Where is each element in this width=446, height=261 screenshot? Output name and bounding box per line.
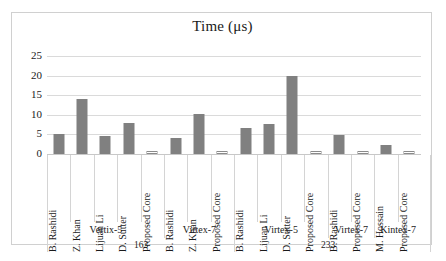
bar-slot [164, 56, 187, 154]
bar[interactable] [380, 145, 391, 154]
y-axis-tick-5: 5 [16, 128, 42, 139]
category-label-cell: B. Rashidi [234, 155, 257, 222]
supergroup-label: 163 [47, 238, 234, 252]
y-axis-tick-10: 10 [16, 109, 42, 120]
bar-slot [257, 56, 280, 154]
bar[interactable] [357, 151, 368, 154]
bar-slot [374, 56, 397, 154]
bar-slot [47, 56, 70, 154]
group-label: Kintex-7 [374, 222, 421, 238]
category-label-cell: B. Rashidi [164, 155, 187, 222]
supergroup-label: 233 [234, 238, 421, 252]
bar[interactable] [217, 151, 228, 154]
bar-slot [211, 56, 234, 154]
category-label-cell: Proposed Core [141, 155, 164, 222]
group-label: Vertix-5 [47, 222, 164, 238]
bar[interactable] [100, 136, 111, 154]
y-axis-tick-20: 20 [16, 70, 42, 81]
category-label-cell: Lijuan Li [257, 155, 280, 222]
category-label-cell: Proposed Core [351, 155, 374, 222]
bar-slot [304, 56, 327, 154]
chart-frame: Time (μs) 0510152025 B. RashidiZ. KhanLi… [11, 12, 432, 245]
category-label-cell: B. Rashidi [328, 155, 351, 222]
group-label: Virtex-5 [234, 222, 328, 238]
bar[interactable] [287, 76, 298, 154]
bar-series [47, 56, 421, 154]
bar-slot [281, 56, 304, 154]
bar[interactable] [193, 114, 204, 154]
bar[interactable] [77, 99, 88, 154]
bar[interactable] [170, 138, 181, 154]
group-label: Virtex-7 [164, 222, 234, 238]
bar[interactable] [53, 134, 64, 154]
bar[interactable] [264, 124, 275, 154]
group-label-band: Vertix-5Virtex-7Virtex-5Virtex-7Kintex-7 [47, 222, 421, 238]
bar-slot [328, 56, 351, 154]
bar[interactable] [123, 123, 134, 154]
bar[interactable] [310, 151, 321, 154]
bar-slot [117, 56, 140, 154]
supergroup-label-band: 163233 [47, 238, 421, 252]
category-label-cell: M. Hossain [374, 155, 397, 222]
y-axis-tick-15: 15 [16, 89, 42, 100]
bar-slot [94, 56, 117, 154]
category-label-cell: B. Rashidi [47, 155, 70, 222]
category-label-cell: Proposed Core [211, 155, 234, 222]
category-label-cell: D. Sutter [281, 155, 304, 222]
label-band-end-border [430, 155, 431, 252]
category-label-cell: Z. Khan [70, 155, 93, 222]
category-label-cell: Proposed Core [304, 155, 327, 222]
category-label-cell: Z. Khan [187, 155, 210, 222]
bar[interactable] [404, 151, 415, 154]
bar-slot [141, 56, 164, 154]
category-label-cell: Proposed Core [398, 155, 421, 222]
bar-slot [70, 56, 93, 154]
y-axis-tick-0: 0 [16, 148, 42, 159]
bar[interactable] [147, 151, 158, 154]
category-label-band: B. RashidiZ. KhanLijuan LiD. SutterPropo… [47, 155, 421, 222]
group-label: Virtex-7 [328, 222, 375, 238]
y-axis-tick-25: 25 [16, 50, 42, 61]
bar-slot [351, 56, 374, 154]
bar-slot [398, 56, 421, 154]
bar-slot [187, 56, 210, 154]
bar[interactable] [240, 128, 251, 154]
category-label-cell: Lijuan Li [94, 155, 117, 222]
bar[interactable] [334, 135, 345, 154]
chart-title: Time (μs) [12, 18, 433, 35]
category-label-cell: D. Sutter [117, 155, 140, 222]
bar-slot [234, 56, 257, 154]
